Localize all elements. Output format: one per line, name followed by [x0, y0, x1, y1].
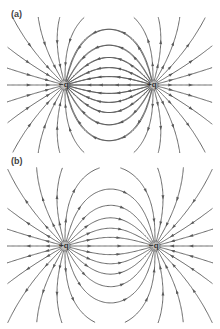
panel-b-field-lines [7, 167, 213, 323]
field-line-diagram [0, 0, 220, 329]
panel-b-right-charge-label: −q [149, 242, 159, 250]
panel-a-label: (a) [11, 9, 22, 19]
panel-b-left-charge-label: +q [59, 242, 69, 250]
panel-a-field-lines [7, 17, 212, 153]
panel-a-right-charge-label: +q [147, 81, 157, 89]
panel-b-label: (b) [11, 156, 23, 166]
panel-a-left-charge-label: −q [59, 81, 69, 89]
